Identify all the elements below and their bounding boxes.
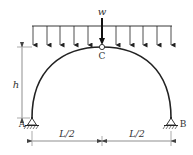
distributed-load bbox=[32, 18, 172, 45]
load-label: w bbox=[98, 6, 107, 17]
span-dimension bbox=[32, 131, 171, 146]
hinge-c-icon bbox=[99, 44, 104, 49]
left-span-label: L/2 bbox=[58, 128, 75, 139]
arch-diagram: w C A B h bbox=[0, 0, 193, 155]
height-dimension bbox=[17, 47, 32, 118]
right-span-label: L/2 bbox=[128, 128, 145, 139]
pin-support-a-icon bbox=[24, 117, 39, 129]
support-b-label: B bbox=[180, 119, 187, 129]
height-label: h bbox=[13, 79, 19, 90]
support-a-label: A bbox=[18, 119, 26, 129]
pin-support-b-icon bbox=[163, 117, 178, 129]
hinge-c-label: C bbox=[99, 51, 106, 61]
